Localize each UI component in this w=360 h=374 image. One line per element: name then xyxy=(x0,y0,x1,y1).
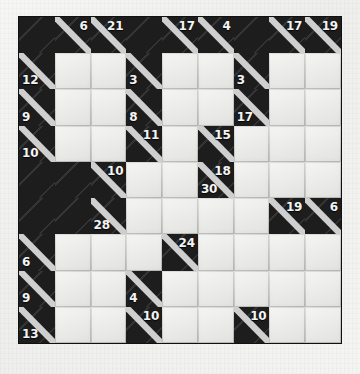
clue-cell: 1830 xyxy=(198,162,234,198)
kakuro-grid[interactable]: 6211741719123398171011151018302819662494… xyxy=(19,17,341,343)
entry-cell-value xyxy=(234,234,270,270)
across-clue-number: 9 xyxy=(22,111,30,123)
entry-cell-value xyxy=(234,126,270,162)
entry-cell-value xyxy=(91,53,127,89)
clue-cell: 11 xyxy=(126,126,162,162)
entry-cell-value xyxy=(305,126,341,162)
entry-cell-value xyxy=(269,53,305,89)
down-clue-number: 10 xyxy=(250,310,266,322)
entry-cell-value xyxy=(55,234,91,270)
entry-cell[interactable] xyxy=(198,234,234,270)
entry-cell[interactable] xyxy=(162,271,198,307)
entry-cell[interactable] xyxy=(269,234,305,270)
entry-cell[interactable] xyxy=(162,53,198,89)
entry-cell[interactable] xyxy=(55,271,91,307)
entry-cell[interactable] xyxy=(234,271,270,307)
clue-cell: 4 xyxy=(198,17,234,53)
entry-cell-value xyxy=(269,234,305,270)
across-clue-number: 28 xyxy=(94,219,110,231)
entry-cell[interactable] xyxy=(305,89,341,125)
entry-cell-value xyxy=(126,162,162,198)
down-clue-number: 17 xyxy=(286,20,302,32)
entry-cell[interactable] xyxy=(162,198,198,234)
entry-cell[interactable] xyxy=(269,162,305,198)
entry-cell[interactable] xyxy=(234,198,270,234)
entry-cell-value xyxy=(198,307,234,343)
entry-cell[interactable] xyxy=(305,307,341,343)
entry-cell-value xyxy=(198,198,234,234)
entry-cell[interactable] xyxy=(305,271,341,307)
entry-cell[interactable] xyxy=(162,162,198,198)
entry-cell[interactable] xyxy=(234,234,270,270)
entry-cell[interactable] xyxy=(198,53,234,89)
entry-cell[interactable] xyxy=(91,307,127,343)
entry-cell-value xyxy=(305,307,341,343)
entry-cell[interactable] xyxy=(305,162,341,198)
entry-cell[interactable] xyxy=(91,126,127,162)
entry-cell[interactable] xyxy=(126,162,162,198)
entry-cell[interactable] xyxy=(269,126,305,162)
entry-cell-value xyxy=(269,89,305,125)
across-clue-number: 4 xyxy=(129,292,137,304)
entry-cell[interactable] xyxy=(305,234,341,270)
entry-cell[interactable] xyxy=(269,307,305,343)
entry-cell-value xyxy=(305,234,341,270)
across-clue-number: 12 xyxy=(22,74,38,86)
clue-cell: 10 xyxy=(19,126,55,162)
entry-cell-value xyxy=(162,53,198,89)
clue-cell: 3 xyxy=(126,53,162,89)
entry-cell[interactable] xyxy=(55,89,91,125)
entry-cell-value xyxy=(55,89,91,125)
entry-cell[interactable] xyxy=(198,307,234,343)
entry-cell[interactable] xyxy=(126,234,162,270)
entry-cell-value xyxy=(198,234,234,270)
clue-cell: 6 xyxy=(19,234,55,270)
clue-cell: 21 xyxy=(91,17,127,53)
entry-cell[interactable] xyxy=(91,234,127,270)
entry-cell[interactable] xyxy=(198,198,234,234)
across-clue-number: 3 xyxy=(129,74,137,86)
down-clue-number: 6 xyxy=(79,20,87,32)
entry-cell[interactable] xyxy=(305,53,341,89)
down-clue-number: 4 xyxy=(223,20,231,32)
entry-cell[interactable] xyxy=(55,53,91,89)
entry-cell[interactable] xyxy=(91,89,127,125)
entry-cell-value xyxy=(91,234,127,270)
entry-cell-value xyxy=(269,271,305,307)
clue-cell: 10 xyxy=(91,162,127,198)
entry-cell[interactable] xyxy=(198,89,234,125)
entry-cell[interactable] xyxy=(91,53,127,89)
entry-cell[interactable] xyxy=(269,53,305,89)
entry-cell[interactable] xyxy=(269,271,305,307)
across-clue-number: 9 xyxy=(22,292,30,304)
entry-cell[interactable] xyxy=(234,162,270,198)
across-clue-number: 13 xyxy=(22,328,38,340)
across-clue-number: 8 xyxy=(129,111,137,123)
entry-cell-value xyxy=(234,271,270,307)
entry-cell-value xyxy=(91,307,127,343)
clue-cell: 6 xyxy=(305,198,341,234)
entry-cell-value xyxy=(55,53,91,89)
entry-cell[interactable] xyxy=(126,198,162,234)
clue-cell: 15 xyxy=(198,126,234,162)
across-clue-number: 30 xyxy=(201,183,217,195)
entry-cell[interactable] xyxy=(198,271,234,307)
entry-cell[interactable] xyxy=(234,126,270,162)
entry-cell[interactable] xyxy=(91,271,127,307)
entry-cell[interactable] xyxy=(55,234,91,270)
across-clue-number: 6 xyxy=(22,256,30,268)
down-clue-number: 19 xyxy=(322,20,338,32)
entry-cell[interactable] xyxy=(55,126,91,162)
entry-cell[interactable] xyxy=(269,89,305,125)
filler-cell xyxy=(55,162,91,198)
entry-cell[interactable] xyxy=(162,89,198,125)
clue-cell: 9 xyxy=(19,89,55,125)
entry-cell[interactable] xyxy=(162,126,198,162)
down-clue-number: 6 xyxy=(330,201,338,213)
clue-cell: 10 xyxy=(234,307,270,343)
entry-cell[interactable] xyxy=(305,126,341,162)
entry-cell[interactable] xyxy=(55,307,91,343)
entry-cell[interactable] xyxy=(162,307,198,343)
entry-cell-value xyxy=(91,89,127,125)
filler-cell xyxy=(19,17,55,53)
